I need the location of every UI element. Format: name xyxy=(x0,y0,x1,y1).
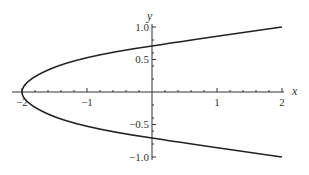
x-tick-label-neg2: −2 xyxy=(16,96,28,108)
y-tick-label-neg0.5: −0.5 xyxy=(129,118,149,130)
x-axis-label: x xyxy=(291,84,298,98)
y-tick-label-0.5: 0.5 xyxy=(135,53,149,65)
y-tick-label-neg1: −1.0 xyxy=(129,151,149,163)
x-tick-label-1: 1 xyxy=(214,96,220,108)
x-tick-label-neg1: −1 xyxy=(81,96,93,108)
x-tick-label-2: 2 xyxy=(279,96,285,108)
plot-canvas: −2 −1 1 2 1.0 0.5 −0.5 −1.0 x y xyxy=(0,0,309,175)
y-axis-label: y xyxy=(146,9,153,23)
